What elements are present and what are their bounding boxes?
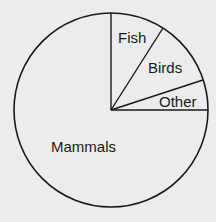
slice-label-other: Other [159,93,197,110]
pie-chart: Fish Birds Other Mammals [0,0,216,222]
slice-label-fish: Fish [118,29,146,46]
slice-label-birds: Birds [148,59,182,76]
pie-chart-svg: Fish Birds Other Mammals [0,0,216,222]
slice-label-mammals: Mammals [51,138,116,155]
